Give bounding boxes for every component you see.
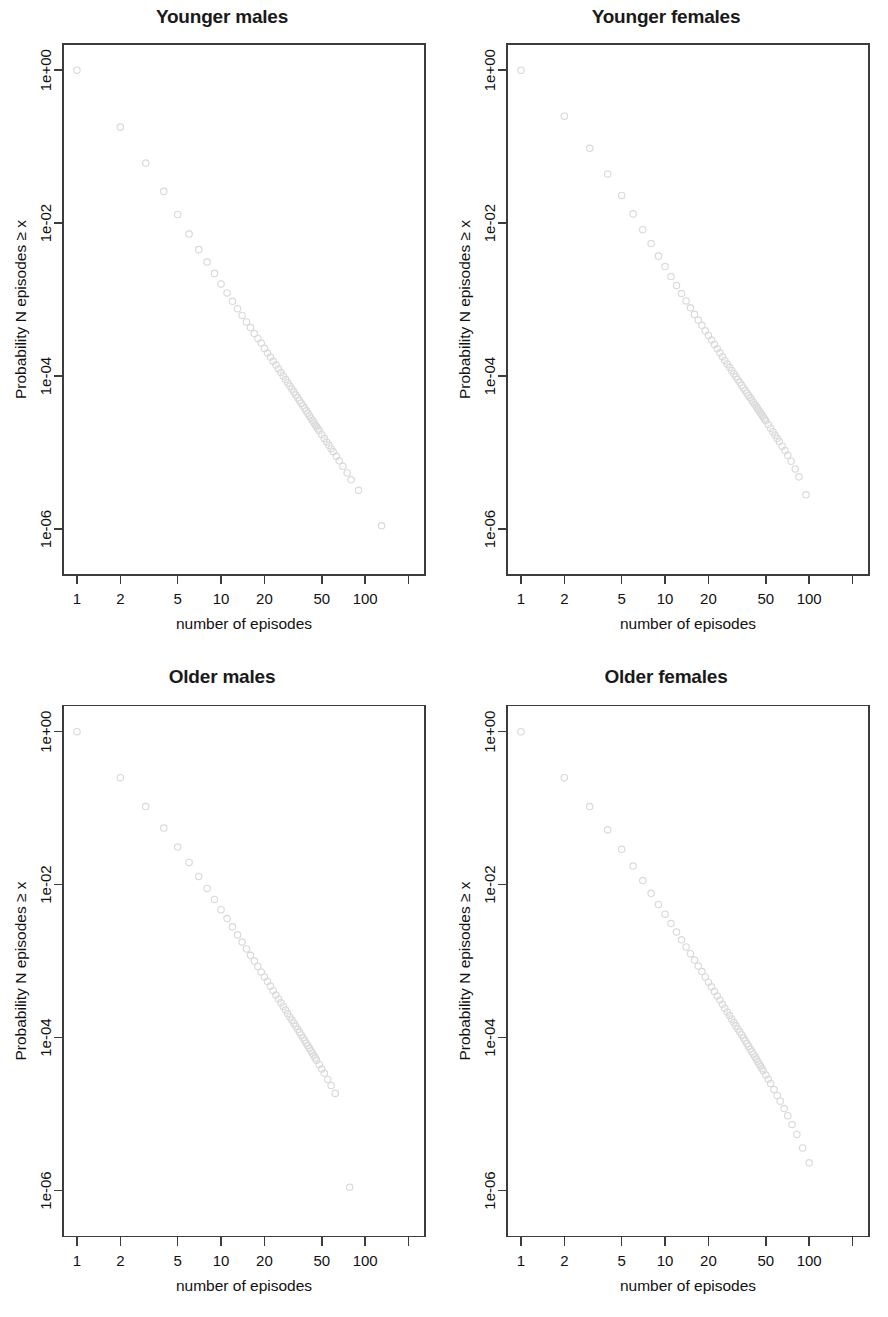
data-point — [229, 924, 235, 930]
data-point — [673, 282, 679, 288]
x-tick-label: 5 — [174, 590, 182, 607]
data-point — [332, 1090, 338, 1096]
x-tick-label: 1 — [517, 1252, 525, 1269]
y-tick-label: 1e-06 — [37, 510, 54, 548]
x-tick-label: 5 — [174, 1252, 182, 1269]
data-point — [655, 253, 661, 259]
x-tick-label: 10 — [213, 1252, 230, 1269]
data-point — [196, 246, 202, 252]
data-point — [143, 160, 149, 166]
data-point — [117, 124, 123, 130]
y-axis-title: Probability N episodes ≥ x — [12, 881, 29, 1060]
data-point — [243, 946, 249, 952]
data-point — [640, 877, 646, 883]
x-tick-label: 10 — [657, 590, 674, 607]
data-point — [518, 728, 524, 734]
data-point — [687, 950, 693, 956]
data-point — [196, 873, 202, 879]
x-axis-title: number of episodes — [620, 1277, 756, 1294]
plot-box — [507, 706, 869, 1237]
data-point — [378, 523, 384, 529]
data-point — [605, 171, 611, 177]
data-point — [175, 211, 181, 217]
data-point — [803, 492, 809, 498]
y-tick-label: 1e-04 — [37, 357, 54, 395]
plot-area-older-females: 1251020501001e+001e-021e-041e-06number o… — [444, 660, 888, 1317]
x-tick-label: 10 — [657, 1252, 674, 1269]
x-tick-label: 2 — [116, 1252, 124, 1269]
y-tick-label: 1e-02 — [481, 204, 498, 242]
y-tick-label: 1e-06 — [481, 510, 498, 548]
data-point — [619, 192, 625, 198]
data-point — [204, 259, 210, 265]
data-point — [702, 328, 708, 334]
plot-area-older-males: 1251020501001e+001e-021e-041e-06number o… — [0, 660, 444, 1317]
figure-panel-grid: Younger males 1251020501001e+001e-021e-0… — [0, 0, 888, 1317]
x-tick-label: 50 — [313, 590, 330, 607]
data-point-group — [74, 67, 385, 529]
panel-younger-males: Younger males 1251020501001e+001e-021e-0… — [0, 0, 444, 660]
data-point — [691, 957, 697, 963]
x-tick-label: 50 — [313, 1252, 330, 1269]
x-axis-title: number of episodes — [176, 615, 312, 632]
y-tick-label: 1e-04 — [37, 1018, 54, 1056]
y-tick-label: 1e-06 — [37, 1171, 54, 1209]
data-point — [186, 231, 192, 237]
data-point — [346, 1184, 352, 1190]
data-point — [218, 906, 224, 912]
data-point — [605, 827, 611, 833]
data-point — [355, 487, 361, 493]
x-tick-label: 2 — [116, 590, 124, 607]
data-point — [792, 466, 798, 472]
data-point — [325, 1076, 331, 1082]
y-tick-label: 1e-02 — [481, 865, 498, 903]
data-point — [211, 896, 217, 902]
data-point — [788, 458, 794, 464]
data-point-group — [74, 728, 353, 1190]
data-point — [255, 335, 261, 341]
data-point — [243, 319, 249, 325]
y-axis-title: Probability N episodes ≥ x — [456, 881, 473, 1060]
data-point — [678, 290, 684, 296]
y-tick-label: 1e-06 — [481, 1171, 498, 1209]
x-tick-label: 1 — [73, 1252, 81, 1269]
data-point — [344, 470, 350, 476]
data-point — [662, 263, 668, 269]
data-point — [683, 944, 689, 950]
x-tick-label: 5 — [618, 590, 626, 607]
data-point — [799, 1145, 805, 1151]
data-point — [340, 463, 346, 469]
data-point — [662, 911, 668, 917]
data-point — [348, 477, 354, 483]
data-point — [619, 846, 625, 852]
data-point — [789, 1121, 795, 1127]
data-point — [143, 803, 149, 809]
data-point — [161, 188, 167, 194]
y-axis-title: Probability N episodes ≥ x — [456, 220, 473, 399]
data-point — [673, 929, 679, 935]
data-point — [247, 324, 253, 330]
y-tick-label: 1e-02 — [37, 865, 54, 903]
data-point — [785, 1113, 791, 1119]
panel-older-males: Older males 1251020501001e+001e-021e-041… — [0, 660, 444, 1317]
plot-box — [63, 706, 425, 1237]
data-point — [239, 939, 245, 945]
data-point — [234, 932, 240, 938]
data-point — [705, 332, 711, 338]
data-point — [234, 305, 240, 311]
x-tick-label: 20 — [700, 1252, 717, 1269]
data-point — [630, 211, 636, 217]
x-tick-label: 1 — [73, 590, 81, 607]
data-point — [224, 915, 230, 921]
data-point — [247, 952, 253, 958]
x-tick-label: 100 — [797, 1252, 822, 1269]
plot-area-younger-males: 1251020501001e+001e-021e-041e-06number o… — [0, 0, 444, 660]
data-point — [161, 825, 167, 831]
data-point — [561, 113, 567, 119]
y-tick-label: 1e-04 — [481, 357, 498, 395]
data-point — [518, 67, 524, 73]
data-point — [678, 937, 684, 943]
x-tick-label: 20 — [700, 590, 717, 607]
data-point — [655, 901, 661, 907]
data-point — [218, 281, 224, 287]
